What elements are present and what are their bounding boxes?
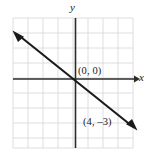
coordinate-plane-figure: y x (0, 0) (4, –3) [0, 0, 150, 155]
y-axis-label: y [70, 2, 75, 13]
plotted-line [19, 36, 130, 125]
point-4-neg3-label: (4, –3) [83, 117, 112, 128]
line-arrowhead-lower-right-icon [126, 119, 138, 131]
grid-lines [13, 18, 133, 148]
graph-canvas [0, 0, 150, 155]
x-axis-label: x [139, 72, 144, 83]
line-arrowhead-upper-left-icon [13, 31, 25, 43]
origin-point-label: (0, 0) [78, 66, 101, 77]
